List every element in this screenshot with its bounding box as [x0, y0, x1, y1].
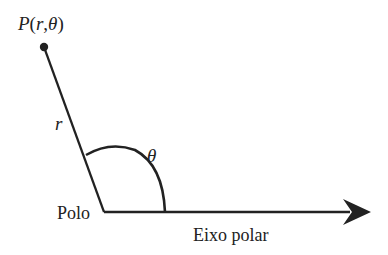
angle-label: θ — [147, 145, 156, 166]
polar-diagram: P(r,θ) r θ Polo Eixo polar — [0, 0, 388, 255]
point-p-dot — [40, 43, 48, 51]
point-label: P(r,θ) — [17, 13, 64, 35]
radius-line — [44, 47, 104, 212]
pole-label: Polo — [57, 203, 90, 223]
radius-label: r — [55, 113, 63, 134]
polar-axis-label: Eixo polar — [193, 225, 268, 245]
